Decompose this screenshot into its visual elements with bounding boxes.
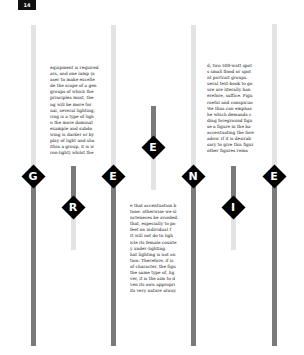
text-line: icle its female counte [130,240,179,246]
text-line: other figures rema [207,148,259,154]
marker-letter-e2: E [141,136,165,160]
marker-letter-e3: E [262,165,286,189]
text-line: hat lighting is not on [130,252,179,258]
column-bar-e3-top [272,24,277,175]
text-line: erefore, suffice. Figu [207,93,259,99]
text-line: ual, several lighting, [50,108,102,114]
marker-letter-g: G [21,165,45,189]
marker-letter-i: I [221,196,245,220]
column-bar-g-bottom [31,175,36,346]
text-block-right: d; two 500-watt spot s small flood or sp… [207,63,259,154]
text-line: he which demands c [207,112,259,118]
column-bar-e3-bottom [272,175,277,346]
text-block-center: e that accentuation b tone: otherwise we… [130,203,179,294]
text-line: ron-light) whilst the [50,150,102,156]
page-number-badge: 14 [18,0,36,10]
marker-letter-r: R [61,196,85,220]
text-line: its very nature alway [130,288,179,294]
text-line: We thus can emphas [207,106,259,112]
column-bar-e1-bottom [111,175,116,346]
text-line: roeful and conspicuo [207,100,259,106]
column-bar-n-top [191,25,196,175]
column-bar-n-bottom [191,175,196,346]
marker-letter-e1: E [101,165,125,189]
text-block-left: equipment is required ars, and one lamp … [50,65,102,156]
column-bar-g-top [31,25,36,175]
marker-letter-n: N [181,165,205,189]
column-bar-e1-top [111,25,116,175]
text-line: It will not do to ligh [130,233,179,239]
